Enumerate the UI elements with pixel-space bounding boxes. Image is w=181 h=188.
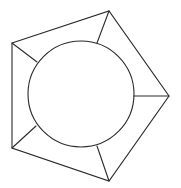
spoke-bottom — [97, 146, 109, 181]
spoke-top-left — [12, 43, 37, 62]
spoke-bottom-left — [12, 126, 36, 148]
spoke-top — [97, 11, 109, 43]
inscribed-circle — [28, 41, 134, 147]
pentagon-circle-diagram — [0, 0, 181, 188]
